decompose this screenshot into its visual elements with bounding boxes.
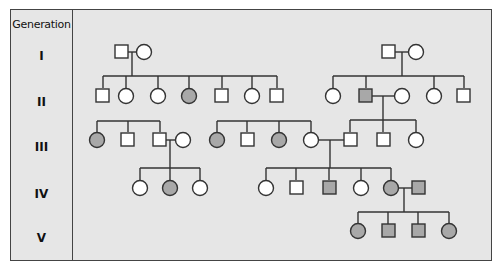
male-affected-icon: [382, 224, 395, 237]
female-unaffected-icon: [354, 181, 369, 196]
female-unaffected-icon: [395, 89, 410, 104]
female-unaffected-icon: [259, 181, 274, 196]
female-unaffected-icon: [326, 89, 341, 104]
male-affected-icon: [412, 181, 425, 194]
female-affected-icon: [442, 224, 457, 239]
female-unaffected-icon: [151, 89, 166, 104]
male-unaffected-icon: [377, 133, 390, 146]
female-unaffected-icon: [427, 89, 442, 104]
female-affected-icon: [384, 181, 399, 196]
female-affected-icon: [272, 133, 287, 148]
female-affected-icon: [182, 89, 197, 104]
male-affected-icon: [359, 89, 372, 102]
male-affected-icon: [412, 224, 425, 237]
female-affected-icon: [351, 224, 366, 239]
male-unaffected-icon: [270, 89, 283, 102]
female-affected-icon: [210, 133, 225, 148]
female-unaffected-icon: [304, 133, 319, 148]
male-unaffected-icon: [382, 45, 395, 58]
male-unaffected-icon: [344, 133, 357, 146]
male-unaffected-icon: [215, 89, 228, 102]
female-unaffected-icon: [119, 89, 134, 104]
male-unaffected-icon: [290, 181, 303, 194]
female-unaffected-icon: [137, 45, 152, 60]
female-affected-icon: [90, 133, 105, 148]
pedigree-nodes: [90, 45, 471, 239]
male-affected-icon: [323, 181, 336, 194]
female-unaffected-icon: [245, 89, 260, 104]
female-unaffected-icon: [176, 133, 191, 148]
female-unaffected-icon: [409, 133, 424, 148]
male-unaffected-icon: [115, 45, 128, 58]
male-unaffected-icon: [121, 133, 134, 146]
female-affected-icon: [163, 181, 178, 196]
male-unaffected-icon: [241, 133, 254, 146]
pedigree-chart: [0, 0, 501, 265]
female-unaffected-icon: [409, 45, 424, 60]
male-unaffected-icon: [96, 89, 109, 102]
female-unaffected-icon: [133, 181, 148, 196]
male-unaffected-icon: [153, 133, 166, 146]
female-unaffected-icon: [193, 181, 208, 196]
male-unaffected-icon: [457, 89, 470, 102]
